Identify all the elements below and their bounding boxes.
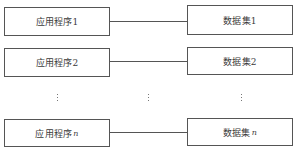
dataset-box-n: 数据集n: [187, 118, 293, 146]
application-box-1: 应用程序1: [4, 7, 110, 36]
dataset-label-1: 数据集1: [223, 14, 257, 27]
application-label-2: 应用程序2: [36, 56, 79, 69]
dataset-box-2: 数据集2: [187, 47, 293, 75]
vertical-ellipsis-icon-right: [240, 93, 242, 102]
application-label-n: 应用程序: [35, 127, 72, 140]
dataset-label-2: 数据集2: [223, 55, 257, 68]
connector-line-2: [110, 61, 187, 62]
vertical-ellipsis-icon-left: [56, 93, 58, 102]
dataset-label-n-suffix: n: [252, 128, 257, 137]
dataset-label-n: 数据集: [223, 126, 251, 139]
vertical-ellipsis-icon-middle: [147, 93, 149, 102]
dataset-box-1: 数据集1: [187, 5, 293, 35]
connector-line-1: [110, 21, 187, 22]
application-label-n-suffix: n: [73, 129, 78, 138]
application-label-1: 应用程序1: [36, 15, 79, 28]
application-box-2: 应用程序2: [4, 48, 110, 77]
application-box-n: 应用程序n: [4, 119, 110, 147]
connector-line-n: [110, 132, 187, 133]
